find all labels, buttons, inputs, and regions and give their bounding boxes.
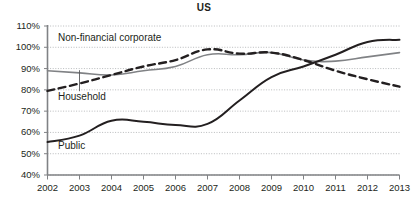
y-axis-tick-label: 40% bbox=[4, 170, 40, 180]
y-axis-tick-label: 60% bbox=[4, 127, 40, 137]
series-label-non-financial-corporate: Non-financial corporate bbox=[58, 32, 161, 43]
y-axis-tick-label: 110% bbox=[4, 21, 40, 31]
y-axis-tick-label: 90% bbox=[4, 64, 40, 74]
series-line-household bbox=[48, 49, 400, 91]
y-axis-tick-label: 80% bbox=[4, 85, 40, 95]
y-axis-tick-label: 50% bbox=[4, 149, 40, 159]
x-axis-tick-label: 2013 bbox=[380, 183, 415, 193]
series-line-non-financial-corporate bbox=[48, 52, 400, 75]
y-axis-tick-label: 100% bbox=[4, 42, 40, 52]
y-axis-tick-label: 70% bbox=[4, 106, 40, 116]
series-label-public: Public bbox=[58, 140, 85, 151]
series-label-household: Household bbox=[58, 91, 106, 102]
